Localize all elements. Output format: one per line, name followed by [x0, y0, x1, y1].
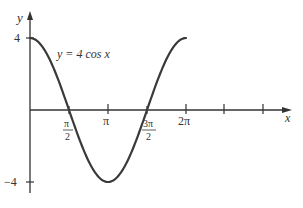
y-tick-label-4: 4: [14, 31, 20, 45]
x-axis-label: x: [284, 111, 291, 125]
function-label-text: y = 4 cos x: [56, 47, 110, 61]
cosine-plot: y x 4 −4 π 2 π 3π 2 2π y = 4 cos x: [0, 0, 303, 208]
x-tick-label-pi-over-2-den: 2: [65, 131, 70, 142]
y-axis-label: y: [15, 10, 23, 25]
x-tick-label-2pi: 2π: [178, 114, 190, 128]
x-tick-label-pi-over-2-num: π: [64, 118, 69, 129]
function-label: y = 4 cos x: [56, 47, 110, 61]
y-axis-arrow-icon: [27, 11, 33, 20]
x-tick-label-3pi-over-2-den: 2: [146, 131, 151, 142]
y-tick-label-neg4: −4: [4, 175, 17, 189]
x-tick-label-pi: π: [103, 114, 109, 128]
